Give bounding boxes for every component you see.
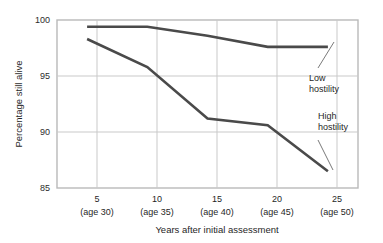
xtick-label-20: 20 (272, 194, 282, 204)
y-axis-title: Percentage still alive (13, 60, 24, 147)
chart-figure: 100 95 90 85 Percentage still alive 5 10… (0, 0, 383, 243)
annotation-low-hostility-line2: hostility (309, 84, 340, 94)
x-axis-title: Years after initial assessment (155, 224, 279, 235)
xtick-label-25: 25 (332, 194, 342, 204)
ytick-label-90: 90 (40, 127, 50, 137)
ytick-label-85: 85 (40, 183, 50, 193)
xtick-sublabel-age40: (age 40) (200, 207, 234, 217)
line-chart: 100 95 90 85 Percentage still alive 5 10… (0, 0, 383, 243)
xtick-sublabel-age50: (age 50) (320, 207, 354, 217)
ytick-label-100: 100 (35, 15, 50, 25)
annotation-low-hostility-line1: Low (309, 73, 326, 83)
ytick-label-95: 95 (40, 71, 50, 81)
xtick-sublabel-age30: (age 30) (80, 207, 114, 217)
xtick-label-5: 5 (94, 194, 99, 204)
xtick-sublabel-age45: (age 45) (260, 207, 294, 217)
xtick-label-10: 10 (152, 194, 162, 204)
xtick-label-15: 15 (212, 194, 222, 204)
xtick-sublabel-age35: (age 35) (140, 207, 174, 217)
annotation-high-hostility-line2: hostility (318, 122, 349, 132)
annotation-high-hostility-line1: High (318, 111, 337, 121)
